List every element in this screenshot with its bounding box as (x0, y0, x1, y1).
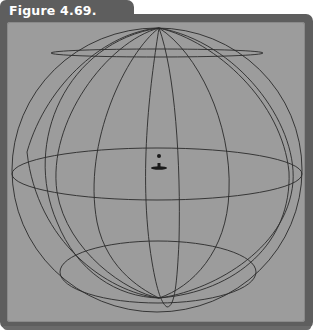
light-icon (151, 154, 167, 170)
figure-label: Figure 4.69. (9, 3, 97, 18)
meridian-7 (159, 28, 293, 298)
latitude-ring-bottom (60, 241, 256, 303)
sphere-outline (12, 28, 302, 312)
meridian-3 (94, 28, 159, 298)
frame-shadow (3, 326, 311, 330)
wireframe-sphere (7, 22, 305, 322)
viewport (7, 22, 305, 322)
meridian-1 (45, 28, 159, 298)
meridian-8 (27, 28, 159, 298)
latitude-ring-top (51, 49, 263, 57)
